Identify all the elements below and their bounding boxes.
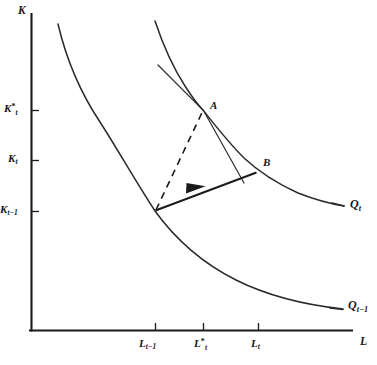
x-tick-base-lt: L: [251, 337, 258, 349]
x-tick-base-ltminus1: L: [139, 337, 146, 349]
isoquant-upper-label-base: Q: [350, 197, 359, 211]
x-tick-label-ltminus1: Lt−1: [139, 338, 156, 351]
isoquant-upper-label: Qt: [350, 198, 361, 213]
isoquant-lower-label-sub: t−1: [357, 305, 368, 314]
y-tick-sub-kstar: t: [16, 108, 18, 117]
x-tick-base-lstar: L: [194, 337, 201, 349]
point-a-label: A: [210, 100, 217, 111]
actual-adjustment-arrow-line: [156, 173, 257, 211]
y-tick-sub-kt: t: [15, 157, 17, 166]
isoquant-lower-label: Qt−1: [348, 299, 368, 314]
isoquant-adjustment-diagram: K L K*t Kt Kt−1 Lt−1 L*t Lt A B Qt Qt−1: [0, 0, 377, 365]
labor-axis-label: L: [360, 336, 367, 348]
isocost-tangent-line: [158, 65, 244, 183]
point-b-label: B: [263, 157, 270, 168]
y-tick-label-ktminus1: Kt−1: [0, 204, 18, 217]
x-tick-label-lstar-t: L*t: [194, 338, 207, 351]
x-tick-sub-lstar: t: [205, 343, 207, 352]
y-tick-label-kt: Kt: [8, 153, 18, 166]
isoquant-lower-label-base: Q: [348, 298, 357, 312]
x-tick-sub-lt: t: [258, 342, 260, 351]
x-tick-sub-ltminus1: t−1: [146, 342, 156, 351]
diagram-canvas: [0, 0, 377, 365]
y-tick-sub-ktminus1: t−1: [7, 208, 17, 217]
x-tick-label-lt: Lt: [251, 338, 260, 351]
isoquant-upper-label-sub: t: [359, 204, 361, 213]
isoquant-lower-curve: [58, 24, 343, 309]
isoquant-upper-curve: [155, 21, 344, 206]
y-tick-label-kstar-t: K*t: [4, 103, 18, 116]
capital-axis-label: K: [18, 5, 26, 17]
